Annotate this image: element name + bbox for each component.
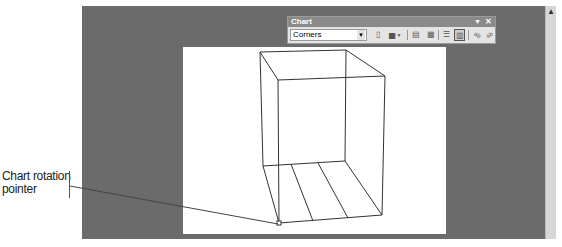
chart-type-icon: ▅ bbox=[389, 30, 395, 39]
by-row-icon: ☰ bbox=[443, 30, 450, 39]
toolbar-separator bbox=[468, 30, 469, 40]
scroll-up-arrow-icon[interactable]: ▲ bbox=[546, 6, 556, 18]
angle-text-upward-button[interactable]: ab bbox=[482, 27, 498, 43]
close-icon[interactable]: ✕ bbox=[485, 17, 492, 27]
format-selected-object-button[interactable]: ▯ bbox=[372, 29, 383, 41]
chart-objects-dropdown[interactable]: Corners ▼ bbox=[290, 29, 367, 41]
toolbar-options-arrow-icon[interactable]: ▼ bbox=[474, 17, 481, 27]
chart-area[interactable] bbox=[183, 47, 446, 234]
data-table-button[interactable]: ▦ bbox=[425, 29, 436, 41]
toolbar-separator bbox=[407, 30, 408, 40]
by-row-button[interactable]: ☰ bbox=[441, 29, 452, 41]
vertical-scrollbar[interactable]: ▲ bbox=[545, 6, 556, 239]
angle-text-upward-icon: ab bbox=[485, 31, 494, 40]
chart-toolbar[interactable]: Chart ▼ ✕ Corners ▼ ▯ ▅ ▼ ▤ ▦ ☰ ▥ ab ab bbox=[287, 16, 496, 44]
chart-type-dropdown-arrow[interactable]: ▼ bbox=[396, 29, 402, 41]
by-column-button[interactable]: ▥ bbox=[454, 29, 465, 41]
chart-objects-selected: Corners bbox=[293, 30, 321, 39]
by-column-icon: ▥ bbox=[456, 31, 464, 40]
toolbar-separator bbox=[438, 30, 439, 40]
legend-button[interactable]: ▤ bbox=[410, 29, 421, 41]
toolbar-title: Chart bbox=[291, 17, 312, 26]
legend-icon: ▤ bbox=[412, 30, 420, 39]
format-object-icon: ▯ bbox=[376, 30, 380, 39]
toolbar-title-bar[interactable]: Chart ▼ ✕ bbox=[288, 17, 495, 27]
callout-label: Chart rotation pointer bbox=[2, 170, 71, 196]
callout-bracket bbox=[69, 171, 70, 198]
callout-line-2: pointer bbox=[2, 183, 71, 196]
data-table-icon: ▦ bbox=[427, 30, 435, 39]
chevron-down-icon[interactable]: ▼ bbox=[357, 30, 365, 40]
